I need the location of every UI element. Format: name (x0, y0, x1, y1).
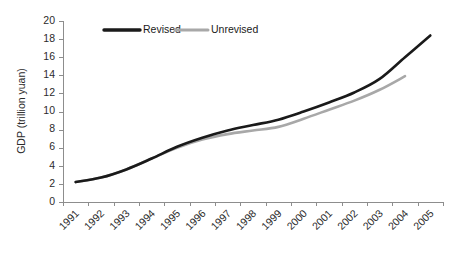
y-tick-label: 16 (43, 50, 55, 62)
y-axis-title: GDP (trillion yuan) (15, 68, 27, 154)
chart-container: 02468101214161820 1991199219931994199519… (0, 0, 464, 254)
y-tick-label: 14 (43, 68, 55, 80)
y-tick-label: 2 (49, 177, 55, 189)
y-tick-label: 8 (49, 122, 55, 134)
y-tick-label: 20 (43, 14, 55, 26)
y-tick-label: 12 (43, 86, 55, 98)
y-tick-label: 6 (49, 140, 55, 152)
y-tick-label: 4 (49, 159, 55, 171)
y-tick-label: 18 (43, 32, 55, 44)
y-tick-label: 0 (49, 195, 55, 207)
gdp-line-chart: 02468101214161820 1991199219931994199519… (0, 0, 464, 254)
y-tick-label: 10 (43, 104, 55, 116)
legend-label-unrevised: Unrevised (211, 23, 258, 35)
